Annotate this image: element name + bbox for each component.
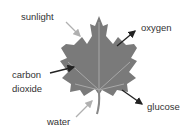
label-carbon: carbon	[12, 69, 41, 80]
water-arrow	[76, 101, 92, 117]
label-glucose: glucose	[147, 101, 180, 112]
label-oxygen: oxygen	[141, 22, 172, 33]
glucose-arrow	[122, 90, 142, 104]
label-water: water	[47, 116, 70, 127]
oxygen-arrow	[117, 31, 135, 46]
leaf-icon	[60, 16, 137, 114]
label-dioxide: dioxide	[12, 83, 42, 94]
sunlight-arrow	[66, 22, 80, 36]
label-sunlight: sunlight	[21, 11, 54, 22]
